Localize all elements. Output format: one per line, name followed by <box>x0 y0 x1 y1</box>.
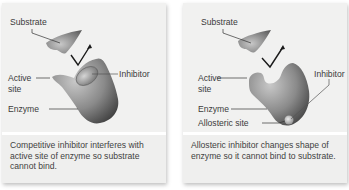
allosteric-inhibitor-shape <box>285 116 294 125</box>
competitive-diagram: Substrate Active site Inhibitor Enzyme <box>2 3 166 129</box>
enzyme-label: Enzyme <box>8 104 39 114</box>
active-site-label-line2: site <box>198 84 211 94</box>
allosteric-caption: Allosteric inhibitor changes shape of en… <box>183 132 347 183</box>
substrate-label: Substrate <box>201 17 238 27</box>
active-site-label-line2: site <box>8 84 21 94</box>
inhibitor-label: Inhibitor <box>314 69 345 79</box>
inhibitor-label: Inhibitor <box>119 69 150 79</box>
enzyme-label: Enzyme <box>198 104 229 114</box>
allosteric-site-label: Allosteric site <box>198 118 249 128</box>
enzyme-shape <box>249 63 309 126</box>
allosteric-inhibition-panel: Substrate Active site Inhibitor Enzyme A… <box>183 3 347 183</box>
active-site-label-line1: Active <box>198 73 221 83</box>
competitive-caption: Competitive inhibitor interferes with ac… <box>2 132 166 183</box>
competitive-inhibition-panel: Substrate Active site Inhibitor Enzyme C… <box>2 3 166 183</box>
blocked-arrow <box>262 47 283 67</box>
substrate-label: Substrate <box>10 17 47 27</box>
allosteric-diagram: Substrate Active site Inhibitor Enzyme A… <box>183 3 347 129</box>
active-site-label-line1: Active <box>8 73 31 83</box>
substrate-shape <box>46 30 82 54</box>
substrate-shape <box>238 30 271 53</box>
